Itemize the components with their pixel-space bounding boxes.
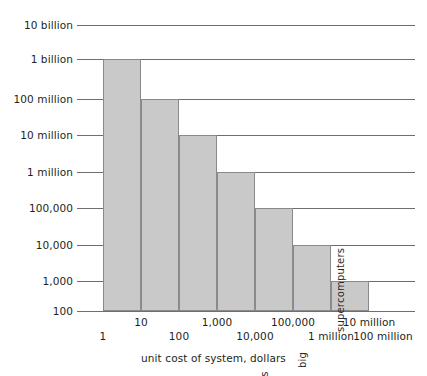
ytick-label-10-billion: 10 billion — [24, 20, 73, 30]
ytick-label-1-million: 1 million — [27, 167, 73, 177]
chart-container: 10 billion 1 billion 100 million 10 mill… — [0, 0, 427, 376]
gridline-10-billion — [103, 25, 415, 26]
ytick-label-1-thousand: 1,000 — [42, 276, 73, 286]
bar-controllers: controllers — [103, 59, 141, 311]
xtick-label-10: 10 — [134, 316, 148, 328]
xtick-label-100000: 100,000 — [271, 316, 315, 328]
ytick-stub-1-thousand — [77, 281, 103, 282]
bar-minis: mini's — [217, 172, 255, 311]
xtick-label-1: 1 — [100, 330, 107, 342]
gridline-1-billion — [103, 59, 415, 60]
bar-micros: micro's — [179, 135, 217, 311]
xtick-label-100: 100 — [169, 330, 189, 342]
xtick-label-1000: 1,000 — [202, 316, 233, 328]
ytick-stub-1-million — [77, 172, 103, 173]
ytick-stub-100-thousand — [77, 208, 103, 209]
ytick-stub-10-thousand — [77, 245, 103, 246]
ytick-stub-10-billion — [77, 25, 103, 26]
x-axis-line — [77, 311, 415, 312]
xtick-label-10-million: 10 million — [343, 316, 396, 328]
bar-label-maxis: maxi's — [259, 371, 270, 376]
bar-big: big — [293, 245, 331, 311]
ytick-label-1-billion: 1 billion — [31, 54, 73, 64]
bar-maxis: maxi's — [255, 208, 293, 311]
xtick-label-100-million: 100 million — [353, 330, 412, 342]
xtick-label-1-million: 1 million — [308, 330, 354, 342]
x-axis-title: unit cost of system, dollars — [0, 352, 427, 364]
ytick-label-10-million: 10 million — [20, 130, 73, 140]
ytick-stub-100-million — [77, 99, 103, 100]
bar-supercomputers: supercomputers — [331, 281, 369, 311]
ytick-label-10-thousand: 10,000 — [36, 240, 73, 250]
ytick-stub-1-billion — [77, 59, 103, 60]
ytick-label-100: 100 — [53, 306, 73, 316]
ytick-stub-10-million — [77, 135, 103, 136]
ytick-label-100-million: 100 million — [14, 94, 73, 104]
bar-calculators: calculators — [141, 99, 179, 311]
xtick-label-10000: 10,000 — [236, 330, 273, 342]
ytick-label-100-thousand: 100,000 — [29, 203, 73, 213]
